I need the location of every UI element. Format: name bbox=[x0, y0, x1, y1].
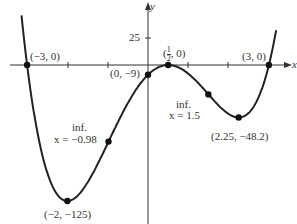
function-graph bbox=[0, 0, 297, 224]
point-label-min-right: (2.25, −48.2) bbox=[211, 130, 269, 142]
x-axis-arrow-icon bbox=[284, 62, 292, 68]
inflection-label-right-x: x = 1.5 bbox=[169, 109, 200, 121]
point-label-min-left: (−2, −125) bbox=[44, 208, 91, 220]
data-point bbox=[105, 138, 111, 144]
data-point bbox=[236, 114, 242, 120]
point-label-3: (3, 0) bbox=[242, 50, 266, 62]
data-point bbox=[266, 62, 272, 68]
inflection-label-left: inf. bbox=[72, 121, 87, 133]
data-point bbox=[64, 198, 70, 204]
data-point bbox=[145, 72, 151, 78]
data-point bbox=[205, 91, 211, 97]
point-label-minus3: (−3, 0) bbox=[30, 50, 60, 62]
point-label-half: (12, 0) bbox=[163, 46, 185, 63]
point-label-yint: (0, −9) bbox=[110, 67, 140, 79]
y-tick-25: 25 bbox=[129, 31, 140, 43]
y-axis-label: y bbox=[150, 0, 155, 12]
x-axis-label: x bbox=[292, 58, 297, 70]
curve bbox=[22, 15, 277, 201]
inflection-label-left-x: x = −0.98 bbox=[54, 133, 97, 145]
data-point bbox=[24, 62, 30, 68]
